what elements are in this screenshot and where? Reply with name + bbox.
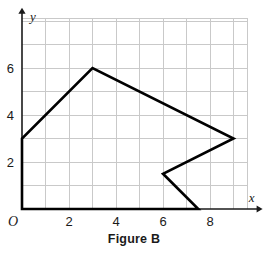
origin-label: O xyxy=(8,214,18,229)
x-axis-name: x xyxy=(248,190,255,205)
figure-caption: Figure B xyxy=(0,232,268,246)
axis-lines xyxy=(18,8,262,213)
y-tick-label-4: 4 xyxy=(7,108,14,123)
x-tick-label-2: 2 xyxy=(65,214,72,229)
figure-b-screenshot: 2468246 Oyx Figure B xyxy=(0,0,268,258)
grid-lines xyxy=(22,19,248,209)
y-tick-label-6: 6 xyxy=(7,61,14,76)
x-tick-label-6: 6 xyxy=(159,214,166,229)
coordinate-plane: 2468246 Oyx xyxy=(0,0,268,258)
y-axis-name: y xyxy=(28,9,36,24)
x-tick-label-4: 4 xyxy=(112,214,119,229)
y-tick-label-2: 2 xyxy=(7,155,14,170)
axis-name-labels: Oyx xyxy=(8,9,255,229)
tick-labels: 2468246 xyxy=(7,61,214,230)
x-tick-label-8: 8 xyxy=(206,214,213,229)
